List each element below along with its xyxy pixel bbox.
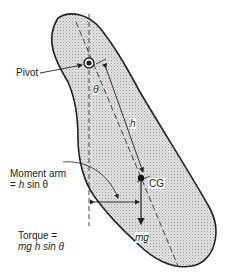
h-label: h [130,118,136,129]
cg-label: CG [148,178,165,189]
torque-label: Torque = mg h sin θ [18,230,64,252]
theta-label: θ [93,84,98,95]
pendulum-body [52,14,216,267]
mg-label: mg [135,232,149,243]
moment-arm-label: Moment arm = h sin θ [10,168,66,190]
pivot-label: Pivot [16,67,38,78]
